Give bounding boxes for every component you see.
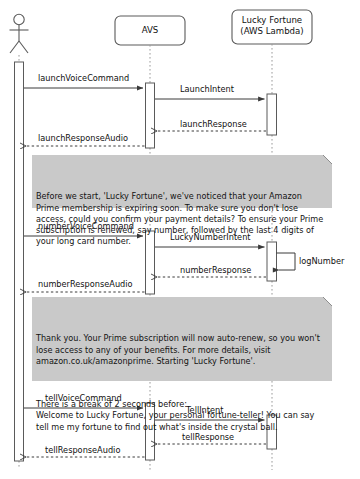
note-paragraph: Thank you. Your Prime subscription will … [36, 333, 327, 366]
participant-label-lambda: Lucky Fortune (AWS Lambda) [232, 15, 312, 36]
message-label-launchResponseAudio: launchResponseAudio [38, 134, 128, 142]
note-fold-line-icon [323, 155, 332, 164]
message-label-launchVoiceCommand: launchVoiceCommand [38, 74, 129, 82]
message-label-launchResponse: launchResponse [180, 120, 247, 128]
message-label-numberResponseAudio: numberResponseAudio [38, 280, 133, 288]
message-label-numberResponse: numberResponse [180, 266, 251, 274]
message-label-LaunchIntent: LaunchIntent [180, 85, 234, 93]
note-fold-line-icon [323, 297, 332, 306]
message-label-tellResponseAudio: tellResponseAudio [45, 446, 120, 454]
note-prime-confirm: Before we start, 'Lucky Fortune', we've … [32, 155, 332, 208]
note-paragraph-gap [36, 378, 327, 388]
note-paragraph: Before we start, 'Lucky Fortune', we've … [36, 191, 327, 247]
participant-label-avs: AVS [115, 25, 185, 36]
lifeline-actor [10, 14, 29, 468]
note-paragraph: There is a break of 2 seconds before: We… [36, 399, 327, 432]
note-prime-thanks: Thank you. Your Prime subscription will … [32, 297, 332, 381]
